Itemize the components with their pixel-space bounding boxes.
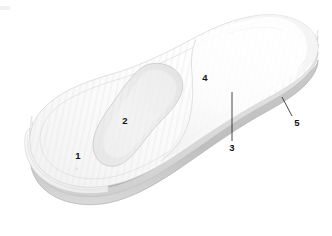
figure-canvas: 1 2 3 4 5 xyxy=(0,0,332,236)
reference-numeral-3: 3 xyxy=(229,142,234,153)
insole-cutaway-drawing: 1 2 3 4 5 xyxy=(0,0,332,236)
reference-numeral-4: 4 xyxy=(202,72,208,83)
top-surface-group xyxy=(0,0,332,236)
reference-numeral-2: 2 xyxy=(122,115,127,126)
reference-numeral-5: 5 xyxy=(294,117,300,128)
leader-line-5 xyxy=(282,97,292,116)
reference-numeral-1: 1 xyxy=(75,150,81,161)
corner-artifact xyxy=(0,6,10,10)
